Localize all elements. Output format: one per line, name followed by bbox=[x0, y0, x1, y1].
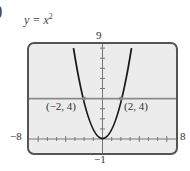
ymax-label: 9 bbox=[96, 29, 102, 41]
equation-title: y = x2 bbox=[24, 12, 53, 28]
graph-plot bbox=[29, 44, 176, 153]
point-label-right: (2, 4) bbox=[124, 100, 148, 112]
equation-exponent: 2 bbox=[49, 12, 53, 21]
equation-lhs: y = x bbox=[24, 13, 49, 27]
point-label-left: (−2, 4) bbox=[46, 100, 76, 112]
calculator-screen: (−2, 4) (2, 4) bbox=[27, 42, 178, 155]
part-marker: ) bbox=[0, 2, 2, 20]
intersection-point-right bbox=[119, 97, 123, 101]
intersection-point-left bbox=[82, 97, 86, 101]
xmin-label: −8 bbox=[10, 130, 22, 142]
xmax-label: 8 bbox=[180, 130, 186, 142]
